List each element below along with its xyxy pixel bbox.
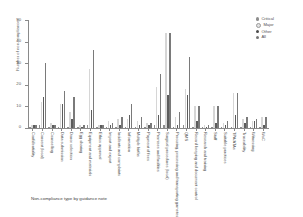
x-axis-label-slot: Incidents and complaints <box>114 132 124 192</box>
x-axis-tick-label: Witnessing <box>251 132 255 152</box>
x-axis-label-slot: Staff <box>210 132 220 192</box>
x-axis-tick-slot <box>47 128 57 131</box>
x-axis-tick <box>80 128 81 131</box>
y-axis-label: Number of non-compliances <box>15 0 20 90</box>
bar-group <box>114 20 124 128</box>
x-axis-tick-label: Ethics approval <box>98 132 102 159</box>
x-axis-label-slot: Consent (local) <box>38 132 48 192</box>
x-axis-label-slot: Traceability <box>239 132 249 192</box>
x-axis-tick-slot <box>220 128 230 131</box>
x-axis-tick-slot <box>38 128 48 131</box>
x-axis-tick-slot <box>143 128 153 131</box>
y-axis-tick-label: 10 <box>1 104 21 108</box>
x-axis-tick <box>52 128 53 131</box>
x-axis-tick-slot <box>66 128 76 131</box>
bar-group <box>76 20 86 128</box>
x-axis-tick-slot <box>239 128 249 131</box>
x-axis-label-slot: Donor selection <box>66 132 76 192</box>
x-axis-tick <box>90 128 91 131</box>
x-axis-tick-slot <box>124 128 134 131</box>
chart-figure: Number of non-compliances 01020304050 Co… <box>0 0 303 217</box>
x-axis-tick-label: Payment of fees <box>146 132 150 161</box>
x-axis-label-slot: Payment of fees <box>143 132 153 192</box>
x-axis-tick-label: Premises and facilities <box>156 132 160 172</box>
legend-label: Other <box>261 30 271 34</box>
bar-group <box>182 20 192 128</box>
x-axis-tick-label: QMS <box>184 132 188 141</box>
bar-all <box>64 91 66 128</box>
x-axis-label-slot: QMS <box>182 132 192 192</box>
x-axis-tick <box>244 128 245 131</box>
bar-all <box>121 117 123 128</box>
y-axis-tick-label: 50 <box>1 18 21 22</box>
x-axis-tick-label: Staff <box>213 132 217 140</box>
x-axis-tick-slot <box>134 128 144 131</box>
bar-group <box>38 20 48 128</box>
bar-group <box>153 20 163 128</box>
x-axis-tick <box>42 128 43 131</box>
bar-group <box>57 20 67 128</box>
x-axis-tick <box>263 128 264 131</box>
bar-group <box>172 20 182 128</box>
x-axis-tick <box>234 128 235 131</box>
bar-group <box>105 20 115 128</box>
x-axis-tick-label: Counselling <box>50 132 54 153</box>
x-axis-tick-label: Information <box>127 132 131 152</box>
x-axis-label-slot: WoC <box>258 132 268 192</box>
x-axis-tick <box>205 128 206 131</box>
bar-group <box>201 20 211 128</box>
x-axis-tick-slot <box>258 128 268 131</box>
bar-all <box>150 123 152 127</box>
x-axis-tick-label: Incidents and complaints <box>117 132 121 176</box>
bar-group <box>220 20 230 128</box>
x-axis-tick-label: Consent (local) <box>40 132 44 159</box>
x-axis-tick <box>128 128 129 131</box>
x-axis-tick-slot <box>210 128 220 131</box>
legend-item-major: Major <box>256 23 274 28</box>
x-axis-tick-slot <box>191 128 201 131</box>
bar-group <box>124 20 134 128</box>
legend-label: Major <box>263 23 273 27</box>
x-axis-tick <box>157 128 158 131</box>
y-axis-tick-label: 20 <box>1 82 21 86</box>
legend-label: Critical <box>261 17 274 21</box>
x-axis-label-slot: Surgical procedures (local) <box>162 132 172 192</box>
bar-all <box>112 123 114 127</box>
bar-all <box>179 112 181 127</box>
x-axis-tick-slot <box>76 128 86 131</box>
x-axis-tick <box>215 128 216 131</box>
x-axis-tick <box>148 128 149 131</box>
x-axis-tick-slot <box>229 128 239 131</box>
x-axis-label-slot: Counselling <box>47 132 57 192</box>
x-axis-tick-slot <box>86 128 96 131</box>
x-axis-tick <box>61 128 62 131</box>
x-axis-tick-label: Egg sharing <box>79 132 83 153</box>
bar-all <box>189 57 191 128</box>
x-axis-tick-label: Surgical procedures (local) <box>165 132 169 180</box>
bar-all <box>169 33 171 128</box>
x-axis-tick <box>253 128 254 131</box>
x-axis-label-slot: Data submission <box>57 132 67 192</box>
x-axis-label-slot: Import and export <box>105 132 115 192</box>
x-axis-tick-slot <box>28 128 38 131</box>
bar-all <box>265 117 267 128</box>
x-axis-tick <box>176 128 177 131</box>
x-axis-tick-slot <box>57 128 67 131</box>
x-axis-label-slot: Confidentiality <box>28 132 38 192</box>
bar-all <box>141 117 143 128</box>
chart-legend: CriticalMajorOtherAll <box>256 17 274 39</box>
x-axis-tick-label: Equipment and materials <box>88 132 92 176</box>
bar-group <box>28 20 38 128</box>
legend-item-critical: Critical <box>256 17 274 21</box>
bar-group <box>86 20 96 128</box>
x-axis-tick-slot <box>105 128 115 131</box>
bar-all <box>246 117 248 128</box>
x-axis-tick-slot <box>162 128 172 131</box>
x-axis-tick-label: TPA/ATAs <box>232 132 236 150</box>
x-axis-label-slot: Record keeping and document control <box>191 132 201 192</box>
bar-all <box>256 119 258 128</box>
x-axis-tick-label: Multiple births <box>136 132 140 157</box>
x-axis-label-slot: Witnessing <box>249 132 259 192</box>
x-axis-tick-slot <box>114 128 124 131</box>
x-axis-label-slot: Egg sharing <box>76 132 86 192</box>
